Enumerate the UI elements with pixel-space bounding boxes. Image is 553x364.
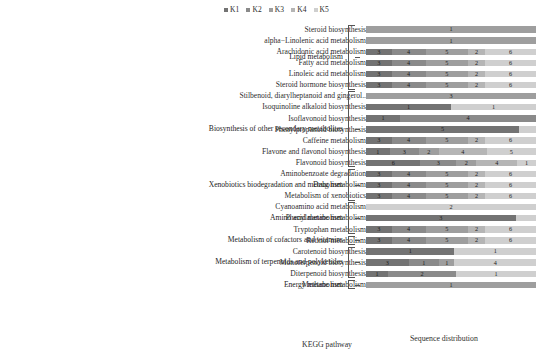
pathway-label: Stilbenoid, diarylheptanoid and gingerol… xyxy=(166,92,366,100)
group-bracket-tick-icon xyxy=(355,262,360,263)
bar-segment-value: 5 xyxy=(445,71,448,77)
stacked-bar: 34526 xyxy=(366,71,536,77)
group-label: Metabolism of cofactors and vitamins xyxy=(228,236,343,244)
legend-swatch-icon xyxy=(224,8,228,12)
bar-segment-k4: 2 xyxy=(468,137,485,143)
bar-row: Cyanoamino acid metabolism2 xyxy=(0,202,553,213)
pathway-label: Metabolism of xenobiotics xyxy=(166,192,366,200)
stacked-bar: 3114 xyxy=(366,259,536,265)
stacked-bar: 11 xyxy=(366,104,536,110)
bar-segment-k5: 6 xyxy=(485,49,536,55)
legend-item-k3: K3 xyxy=(269,6,284,14)
stacked-bar: 34526 xyxy=(366,237,536,243)
stacked-bar: 13245 xyxy=(366,148,536,154)
pathway-label: Diterpenoid biosynthesis xyxy=(166,270,366,278)
bar-segment-value: 6 xyxy=(509,71,512,77)
bar-segment-k1: 1 xyxy=(366,104,451,110)
bar-segment-value: 6 xyxy=(509,82,512,88)
stacked-bar: 34526 xyxy=(366,182,536,188)
bar-segment-value: 3 xyxy=(437,160,440,166)
bar-row: Steroid biosynthesis1 xyxy=(0,24,553,35)
legend: K1K2K3K4K5 xyxy=(0,3,553,17)
legend-swatch-icon xyxy=(314,8,318,12)
bar-segment-k3: 1 xyxy=(439,259,454,265)
bar-row: Metabolism of xenobiotics34526 xyxy=(0,191,553,202)
bar-segment-k4: 2 xyxy=(468,182,485,188)
bar-segment-k5: 2 xyxy=(366,204,536,210)
bar-segment-k3: 1 xyxy=(366,26,536,32)
bar-segment-value: 5 xyxy=(445,226,448,232)
bar-segment-k1: 3 xyxy=(366,237,392,243)
bar-row: alpha−Linolenic acid metabolism1 xyxy=(0,35,553,46)
legend-swatch-icon xyxy=(269,8,273,12)
bar-segment-value: 4 xyxy=(407,60,410,66)
bar-segment-k3: 5 xyxy=(426,226,469,232)
bar-segment-value: 5 xyxy=(445,137,448,143)
bar-segment-value: 2 xyxy=(475,182,478,188)
bar-segment-value: 6 xyxy=(509,171,512,177)
pathway-label: Flavonoid biosynthesis xyxy=(166,159,366,167)
bar-segment-value: 6 xyxy=(392,160,395,166)
bar-segment-k2: 4 xyxy=(392,137,426,143)
bar-segment-k4: 4 xyxy=(476,160,517,166)
group-bracket-tick-icon xyxy=(355,129,360,130)
legend-item-label: K5 xyxy=(320,6,329,14)
bar-segment-k4: 2 xyxy=(468,226,485,232)
stacked-bar: 1 xyxy=(366,26,536,32)
bar-segment-k5: 1 xyxy=(454,248,536,254)
bar-segment-value: 1 xyxy=(494,271,497,277)
bar-segment-k3: 5 xyxy=(426,71,469,77)
bar-segment-k5: 1 xyxy=(456,271,536,277)
bar-segment-k5: 6 xyxy=(485,237,536,243)
group-label: Amino acid metabolism xyxy=(270,214,343,222)
bar-segment-value: 4 xyxy=(407,237,410,243)
bar-row: Steroid hormone biosynthesis34526 xyxy=(0,80,553,91)
bar-segment-k5 xyxy=(516,215,536,221)
legend-swatch-icon xyxy=(291,8,295,12)
stacked-bar: 34526 xyxy=(366,226,536,232)
bar-row: Fatty acid metabolism34526 xyxy=(0,57,553,68)
bar-segment-value: 5 xyxy=(445,171,448,177)
bar-segment-value: 3 xyxy=(377,171,380,177)
bar-segment-value: 5 xyxy=(445,49,448,55)
bar-segment-k1: 3 xyxy=(366,82,392,88)
bar-segment-value: 2 xyxy=(475,137,478,143)
bar-segment-value: 5 xyxy=(445,237,448,243)
pathway-label: Carotenoid biosynthesis xyxy=(166,248,366,256)
bar-segment-value: 4 xyxy=(407,137,410,143)
bar-segment-k3: 1 xyxy=(366,282,536,288)
bar-segment-k4: 4 xyxy=(439,148,487,154)
bar-segment-k5: 1 xyxy=(451,104,536,110)
stacked-bar: 34526 xyxy=(366,137,536,143)
pathway-label: alpha−Linolenic acid metabolism xyxy=(166,37,366,45)
bar-segment-k5: 6 xyxy=(485,182,536,188)
group-bracket-tick-icon xyxy=(355,218,360,219)
bar-segment-value: 1 xyxy=(376,149,379,155)
bar-segment-k3: 5 xyxy=(426,60,469,66)
group-bracket xyxy=(348,247,355,279)
bar-row: Methane metabolism1 xyxy=(0,279,553,290)
pathway-label: Cyanoamino acid metabolism xyxy=(166,203,366,211)
bar-segment-value: 3 xyxy=(377,226,380,232)
bar-segment-value: 3 xyxy=(377,82,380,88)
bar-segment-value: 4 xyxy=(466,115,469,121)
bar-segment-value: 4 xyxy=(407,171,410,177)
bar-row: Diterpenoid biosynthesis121 xyxy=(0,268,553,279)
bar-segment-value: 3 xyxy=(377,49,380,55)
bar-segment-value: 1 xyxy=(409,248,412,254)
bar-segment-k5: 6 xyxy=(485,226,536,232)
bar-segment-value: 2 xyxy=(475,60,478,66)
bar-segment-k2: 4 xyxy=(400,115,536,121)
bar-segment-value: 5 xyxy=(441,126,444,132)
bar-segment-k4: 2 xyxy=(468,71,485,77)
group-bracket-tick-icon xyxy=(355,240,360,241)
bar-segment-k2: 4 xyxy=(392,49,426,55)
bar-segment-value: 1 xyxy=(376,271,379,277)
legend-item-k4: K4 xyxy=(291,6,306,14)
bar-segment-value: 2 xyxy=(465,160,468,166)
bar-segment-k1: 3 xyxy=(366,60,392,66)
group-bracket xyxy=(348,25,355,90)
bar-segment-k1: 3 xyxy=(366,215,516,221)
bar-segment-value: 3 xyxy=(377,137,380,143)
stacked-bar: 3 xyxy=(366,93,536,99)
